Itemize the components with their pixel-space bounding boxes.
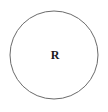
diagram-canvas: R [0, 0, 108, 112]
region-label: R [1, 48, 108, 62]
